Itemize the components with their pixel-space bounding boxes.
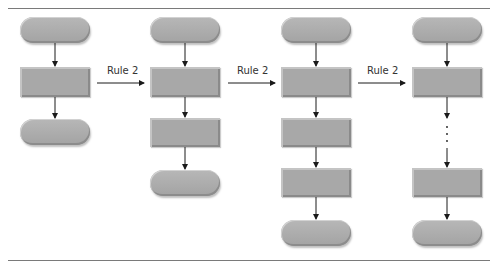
connector-layer [0,0,499,268]
ellipsis-icon [446,126,448,142]
